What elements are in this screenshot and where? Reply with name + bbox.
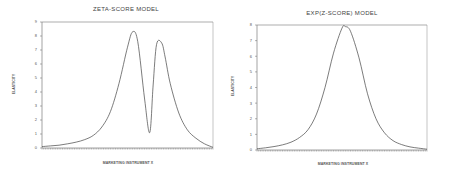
y-tick-label: 8 [35, 33, 38, 38]
y-tick-label: 5 [35, 75, 38, 80]
y-tick-label: 4 [35, 89, 38, 94]
y-tick-label: 6 [250, 54, 253, 59]
y-tick-label: 5 [250, 69, 253, 74]
series-line [42, 31, 213, 147]
y-tick-label: 2 [35, 117, 38, 122]
y-tick-label: 0 [250, 147, 253, 152]
plot-area: 012345678 [225, 0, 451, 178]
chart-exp-z-score: EXP(Z-SCORE) MODEL ELASTICITY MARKETING … [225, 0, 451, 178]
y-tick-label: 9 [35, 19, 38, 24]
y-tick-label: 3 [250, 101, 253, 106]
y-tick-label: 0 [35, 145, 38, 150]
y-tick-label: 3 [35, 103, 38, 108]
y-tick-label: 4 [250, 85, 253, 90]
y-tick-label: 6 [35, 61, 38, 66]
plot-area: 0123456789 [0, 0, 225, 178]
chart-zeta-score: ZETA-SCORE MODEL ELASTICITY MARKETING IN… [0, 0, 225, 178]
series-line [257, 25, 427, 149]
y-tick-label: 8 [250, 22, 253, 27]
y-tick-label: 1 [35, 131, 38, 136]
y-tick-label: 2 [250, 116, 253, 121]
y-tick-label: 1 [250, 132, 253, 137]
y-tick-label: 7 [35, 47, 38, 52]
y-tick-label: 7 [250, 38, 253, 43]
